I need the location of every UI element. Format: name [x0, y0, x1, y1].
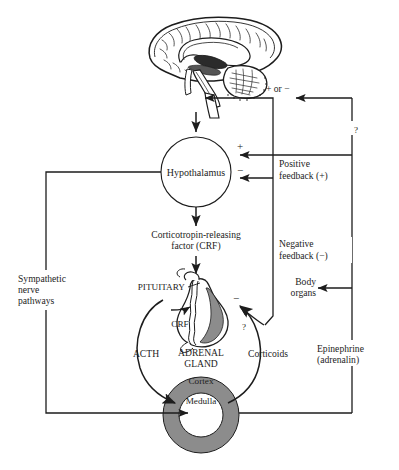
corticoids-label: Corticoids [248, 348, 288, 359]
negative-feedback-line2: feedback (−) [279, 250, 328, 262]
positive-feedback-line2: feedback (+) [279, 170, 328, 182]
adrenal-label-line2: GLAND [184, 358, 218, 369]
minus-sign-hypothalamus: − [237, 164, 243, 176]
crf-text-line2: factor (CRF) [171, 240, 220, 252]
body-organs-line1: Body [295, 276, 316, 287]
plus-sign-hypothalamus: + [237, 140, 243, 152]
hypothalamus-label: Hypothalamus [167, 167, 225, 178]
question-mark-pituitary: ? [242, 322, 246, 332]
crf-text-line1: Corticotropin-releasing [151, 229, 241, 240]
adrenal-cortex-label: Cortex [188, 376, 213, 386]
diagram-canvas: Hypothalamus Corticotropin-releasing fac… [0, 0, 399, 470]
acth-label: ACTH [133, 348, 159, 359]
negative-feedback-line1: Negative [279, 238, 314, 249]
minus-sign-pituitary: − [233, 292, 239, 304]
plus-or-minus-label: + or − [266, 83, 290, 94]
body-organs-line2: organs [291, 287, 317, 298]
adrenal-medulla-label: Medulla [186, 396, 217, 406]
epinephrine-line1: Epinephrine [317, 343, 364, 354]
epinephrine-line2: (adrenalin) [317, 354, 359, 366]
sympathetic-label-line2: nerve [18, 284, 39, 295]
hypothalamus-node: Hypothalamus [161, 137, 231, 207]
pituitary-crf-label: CRF [171, 319, 188, 329]
adrenal-gland-node: Cortex Medulla [163, 376, 239, 453]
hpa-axis-diagram: Hypothalamus Corticotropin-releasing fac… [0, 0, 399, 470]
question-mark-right: ? [354, 125, 358, 135]
positive-feedback-line1: Positive [279, 158, 310, 169]
sympathetic-label-line3: pathways [18, 295, 55, 306]
sympathetic-label-line1: Sympathetic [18, 273, 66, 284]
pituitary-label: PITUITARY [138, 282, 186, 292]
adrenal-label-line1: ADRENAL [178, 347, 224, 358]
